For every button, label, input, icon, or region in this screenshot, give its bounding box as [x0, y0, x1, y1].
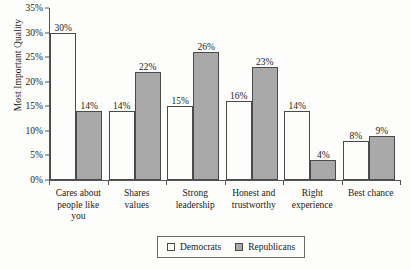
category-label-line: Right — [283, 188, 342, 200]
category-label-line: Best chance — [342, 188, 401, 200]
category-label-line: values — [108, 200, 167, 212]
y-axis-tick-mark — [45, 155, 49, 156]
bar-chart: Most Important Quality 0%5%10%15%20%25%3… — [0, 0, 411, 270]
x-axis-group-separator — [342, 180, 343, 185]
bar-value-label: 14% — [289, 101, 306, 111]
category-label-line: trustworthy — [225, 200, 284, 212]
x-axis-category-label: Cares aboutpeople likeyou — [49, 188, 108, 223]
y-axis-tick-mark — [45, 8, 49, 9]
bar-republicans: 26% — [193, 52, 219, 180]
x-axis-category-label: Honest andtrustworthy — [225, 188, 284, 211]
category-label-line: experience — [283, 200, 342, 212]
category-label-line: Strong — [166, 188, 225, 200]
x-axis-category-label: Rightexperience — [283, 188, 342, 211]
bar-democrats: 14% — [284, 111, 310, 180]
bar-value-label: 14% — [113, 101, 130, 111]
bar-value-label: 26% — [198, 42, 215, 52]
bar-value-label: 9% — [375, 126, 388, 136]
bar-value-label: 22% — [139, 62, 156, 72]
plot-area: 0%5%10%15%20%25%30%35%30%14%14%22%15%26%… — [49, 8, 400, 180]
x-axis-category-label: Best chance — [342, 188, 401, 200]
bar-republicans: 4% — [310, 160, 336, 180]
x-axis-category-label: Sharesvalues — [108, 188, 167, 211]
legend-item-dem[interactable]: Democrats — [167, 242, 221, 252]
legend-label: Democrats — [180, 242, 221, 252]
x-axis-group-separator — [283, 180, 284, 185]
legend-label: Republicans — [248, 242, 295, 252]
bar-republicans: 23% — [252, 67, 278, 180]
bar-democrats: 14% — [109, 111, 135, 180]
bar-value-label: 8% — [349, 131, 362, 141]
y-axis-tick-mark — [45, 57, 49, 58]
bar-republicans: 22% — [135, 72, 161, 180]
bar-democrats: 30% — [50, 33, 76, 180]
legend-swatch-rep — [235, 243, 243, 251]
category-label-line: Cares about — [49, 188, 108, 200]
y-axis-tick-mark — [45, 106, 49, 107]
category-label-line: you — [49, 211, 108, 223]
x-axis-group-separator — [166, 180, 167, 185]
category-label-line: Shares — [108, 188, 167, 200]
bar-democrats: 16% — [226, 101, 252, 180]
bar-value-label: 15% — [172, 96, 189, 106]
bar-value-label: 23% — [256, 57, 273, 67]
bar-republicans: 14% — [76, 111, 102, 180]
x-axis-group-separator — [225, 180, 226, 185]
bar-value-label: 30% — [55, 23, 72, 33]
bar-value-label: 14% — [81, 101, 98, 111]
x-axis-group-separator — [49, 180, 50, 185]
x-axis-group-separator — [108, 180, 109, 185]
bar-democrats: 8% — [343, 141, 369, 180]
legend-swatch-dem — [167, 243, 175, 251]
legend-item-rep[interactable]: Republicans — [235, 242, 295, 252]
x-axis-category-label: Strongleadership — [166, 188, 225, 211]
category-label-line: Honest and — [225, 188, 284, 200]
category-label-line: people like — [49, 200, 108, 212]
chart-legend: DemocratsRepublicans — [157, 236, 305, 258]
y-axis-title: Most Important Quality — [13, 0, 23, 135]
x-axis-group-separator — [400, 180, 401, 185]
category-label-line: leadership — [166, 200, 225, 212]
bar-democrats: 15% — [167, 106, 193, 180]
bar-republicans: 9% — [369, 136, 395, 180]
bar-value-label: 16% — [230, 91, 247, 101]
y-axis-tick-mark — [45, 130, 49, 131]
y-axis-tick-mark — [45, 32, 49, 33]
bar-value-label: 4% — [317, 150, 330, 160]
y-axis-tick-mark — [45, 81, 49, 82]
